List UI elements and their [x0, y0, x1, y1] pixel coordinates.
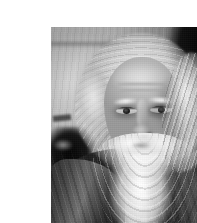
forehead-line-lower	[120, 89, 162, 91]
forehead-line-upper	[117, 83, 165, 85]
portrait-photograph: Black-and-white portrait photograph of a…	[51, 27, 197, 223]
mouth-shadow	[131, 143, 151, 148]
page-root: Black-and-white portrait photograph of a…	[0, 0, 197, 223]
eye-left	[116, 107, 137, 114]
eyelid-left	[116, 107, 137, 110]
photo-canvas	[51, 27, 197, 223]
